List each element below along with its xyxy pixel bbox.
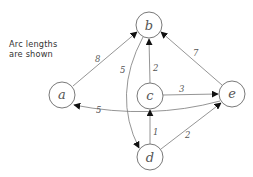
edge-line	[161, 32, 222, 85]
edge-line	[73, 32, 137, 86]
edge-line	[163, 94, 218, 95]
node-a: a	[49, 82, 75, 108]
edge-e-b: 7	[161, 32, 222, 85]
edge-label-e-b: 7	[193, 48, 199, 58]
edge-c-b: 2	[149, 39, 158, 83]
edge-label-d-c: 1	[153, 127, 158, 137]
edge-c-e: 3	[163, 84, 218, 95]
edge-label-b-d: 5	[120, 65, 125, 75]
edge-label-e-a: 5	[96, 105, 101, 115]
edge-label-a-b: 8	[95, 54, 101, 64]
node-label-a: a	[58, 87, 66, 102]
node-e: e	[219, 81, 245, 107]
node-c: c	[137, 83, 163, 109]
node-label-e: e	[228, 86, 236, 101]
edge-d-c: 1	[150, 110, 158, 144]
node-d: d	[137, 144, 163, 170]
edge-label-c-b: 2	[152, 63, 158, 73]
edge-a-b: 8	[73, 32, 137, 86]
edge-label-d-e: 2	[184, 130, 190, 140]
node-label-b: b	[145, 18, 153, 33]
edge-label-c-e: 3	[179, 84, 184, 94]
node-label-d: d	[146, 150, 154, 165]
node-label-c: c	[146, 88, 154, 103]
node-b: b	[136, 12, 162, 38]
edge-line	[149, 39, 150, 83]
directed-graph: 8 5 2 3 7 5 1 2 a b	[0, 0, 253, 177]
